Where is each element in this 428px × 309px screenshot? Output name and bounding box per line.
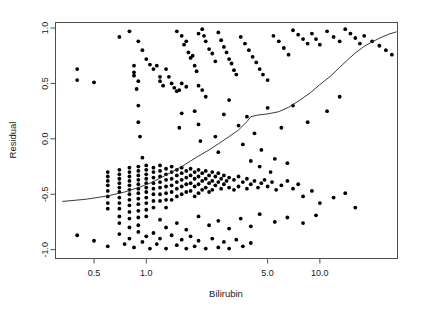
- data-point: [106, 189, 110, 193]
- data-point: [164, 191, 168, 195]
- data-point: [314, 37, 318, 41]
- data-point: [227, 176, 231, 180]
- data-point: [177, 126, 181, 130]
- data-point: [128, 237, 132, 241]
- data-point: [170, 198, 174, 202]
- data-point: [175, 29, 179, 33]
- data-point: [164, 67, 168, 71]
- data-point: [362, 34, 366, 38]
- data-point: [237, 175, 241, 179]
- data-point: [219, 187, 223, 191]
- data-point: [222, 45, 226, 49]
- data-point: [266, 78, 270, 82]
- y-axis-title: Residual: [7, 122, 18, 159]
- data-point: [152, 67, 156, 71]
- data-point: [197, 175, 201, 179]
- data-point: [136, 120, 140, 124]
- data-point: [239, 217, 243, 221]
- data-point: [197, 215, 201, 219]
- data-point: [258, 67, 262, 71]
- data-point: [274, 188, 278, 192]
- data-point: [210, 188, 214, 192]
- data-point: [128, 175, 132, 179]
- data-point: [197, 191, 201, 195]
- data-point: [152, 187, 156, 191]
- data-point: [219, 38, 223, 42]
- data-point: [136, 197, 140, 201]
- data-point: [158, 192, 162, 196]
- data-point: [306, 120, 310, 124]
- x-tick-label: 5.0: [261, 268, 274, 278]
- data-point: [117, 35, 121, 39]
- data-point: [141, 156, 145, 160]
- data-point: [204, 247, 208, 251]
- data-point: [353, 206, 357, 210]
- data-point: [210, 237, 214, 241]
- data-point: [170, 190, 174, 194]
- data-point: [175, 174, 179, 178]
- data-point: [136, 178, 140, 182]
- data-point: [148, 247, 152, 251]
- data-point: [216, 150, 220, 154]
- data-point: [197, 168, 201, 172]
- data-point: [136, 174, 140, 178]
- data-point: [136, 230, 140, 234]
- data-point: [180, 34, 184, 38]
- data-point: [158, 180, 162, 184]
- data-point: [144, 57, 148, 61]
- data-point: [247, 48, 251, 52]
- data-point: [204, 169, 208, 173]
- data-point: [75, 78, 79, 82]
- y-tick-label: -0.5: [40, 186, 50, 202]
- data-point: [184, 182, 188, 186]
- data-point: [384, 48, 388, 52]
- data-point: [189, 181, 193, 185]
- data-point: [136, 39, 140, 43]
- data-point: [75, 233, 79, 237]
- data-point: [225, 51, 229, 55]
- data-point: [249, 241, 253, 245]
- data-point: [128, 226, 132, 230]
- data-point: [144, 168, 148, 172]
- data-point: [189, 189, 193, 193]
- data-point: [106, 175, 110, 179]
- data-point: [332, 35, 336, 39]
- data-point: [158, 169, 162, 173]
- data-point: [164, 185, 168, 189]
- data-point: [222, 113, 226, 117]
- data-point: [216, 219, 220, 223]
- data-point: [117, 201, 121, 205]
- data-point: [117, 172, 121, 176]
- data-point: [279, 183, 283, 187]
- data-point: [200, 171, 204, 175]
- data-point: [128, 166, 132, 170]
- data-point: [175, 195, 179, 199]
- data-point: [75, 67, 79, 71]
- data-point: [269, 170, 273, 174]
- data-point: [158, 164, 162, 168]
- data-point: [338, 95, 342, 99]
- data-point: [287, 53, 291, 57]
- data-point: [282, 46, 286, 50]
- data-point: [200, 188, 204, 192]
- y-tick-label: 0.0: [40, 133, 50, 146]
- y-tick-label: 1.0: [40, 22, 50, 35]
- data-point: [241, 180, 245, 184]
- data-point: [184, 176, 188, 180]
- data-point: [128, 183, 132, 187]
- data-point: [358, 42, 362, 46]
- data-point: [152, 206, 156, 210]
- data-point: [106, 179, 110, 183]
- data-point: [216, 31, 220, 35]
- data-point: [213, 59, 217, 63]
- data-point: [152, 192, 156, 196]
- data-point: [106, 207, 110, 211]
- data-point: [128, 29, 132, 33]
- data-point: [182, 43, 186, 47]
- data-point: [310, 189, 314, 193]
- data-point: [197, 32, 201, 36]
- data-point: [338, 39, 342, 43]
- data-point: [261, 73, 265, 77]
- data-point: [144, 186, 148, 190]
- data-point: [123, 242, 127, 246]
